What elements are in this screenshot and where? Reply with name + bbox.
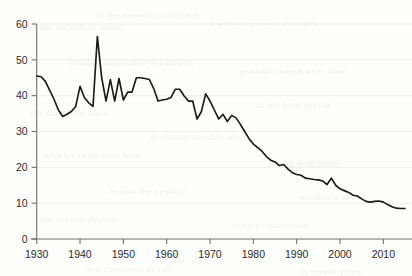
series-layer: [37, 37, 405, 209]
y-tick-label-30: 30: [16, 125, 28, 137]
x-tick-label-2010: 2010: [372, 248, 396, 260]
y-axis-ticks: 0102030405060: [16, 18, 37, 245]
series-path-1: [37, 37, 405, 209]
x-tick-label-1960: 1960: [155, 248, 179, 260]
x-tick-label-1980: 1980: [242, 248, 266, 260]
x-tick-label-1970: 1970: [198, 248, 222, 260]
x-tick-label-1990: 1990: [285, 248, 309, 260]
y-tick-label-10: 10: [16, 197, 28, 209]
y-tick-label-40: 40: [16, 89, 28, 101]
y-tick-label-0: 0: [22, 233, 28, 245]
x-axis-ticks: 193019401950196019701980199020002010: [25, 239, 395, 260]
x-tick-label-1930: 1930: [25, 248, 49, 260]
y-tick-label-20: 20: [16, 161, 28, 173]
x-tick-label-2000: 2000: [328, 248, 352, 260]
gridlines: [37, 24, 412, 203]
x-tick-label-1940: 1940: [68, 248, 92, 260]
y-tick-label-50: 50: [16, 54, 28, 66]
x-tick-label-1950: 1950: [112, 248, 136, 260]
y-tick-label-60: 60: [16, 18, 28, 30]
